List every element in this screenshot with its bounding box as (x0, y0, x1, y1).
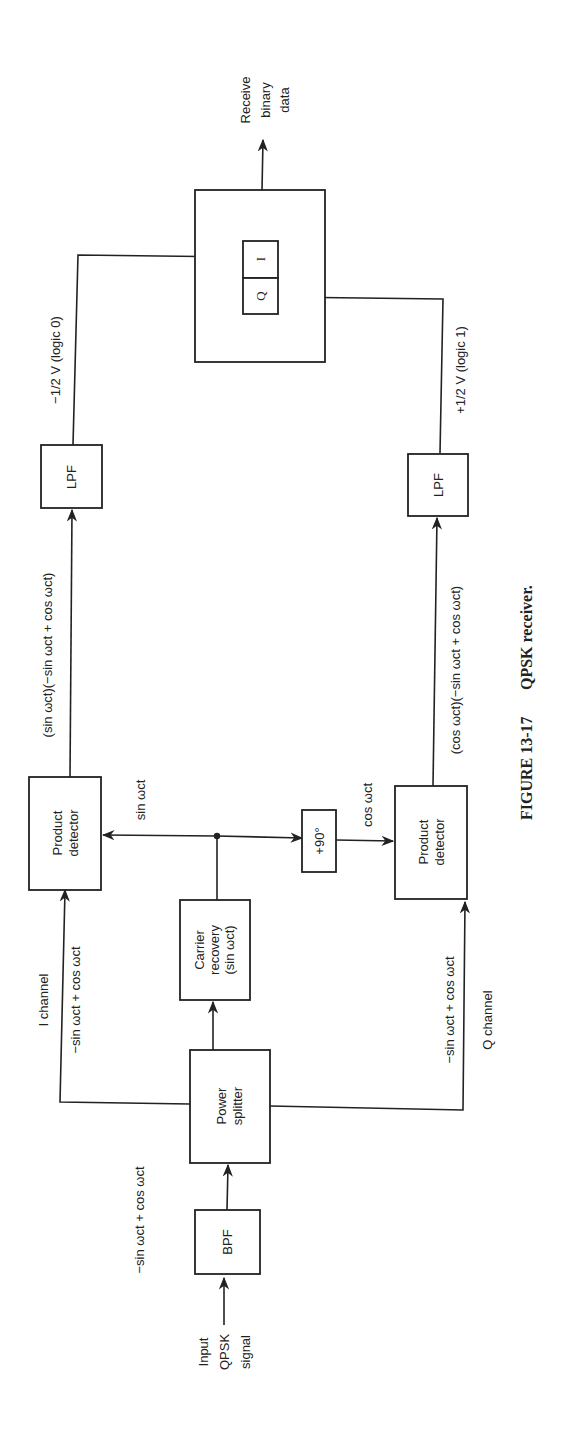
svg-text:Carrier: Carrier (192, 929, 207, 969)
product-detector-i-block: Product detector (29, 777, 101, 890)
input-signal-label: −sin ωct + cos ωct (132, 1166, 147, 1273)
cos-carrier-wire (336, 840, 393, 841)
q-product-wire (433, 518, 437, 786)
svg-text:binary: binary (258, 82, 273, 118)
carrier-recovery-block: Carrier recovery (sin ωct) (180, 900, 250, 1000)
i-output-label: −1/2 V (logic 0) (48, 316, 63, 404)
svg-text:+90°: +90° (312, 827, 327, 854)
i-signal-label: −sin ωct + cos ωct (68, 946, 83, 1053)
svg-text:data: data (277, 87, 292, 113)
qpsk-receiver-diagram: BPF Power splitter Carrier recovery (sin… (0, 0, 567, 1450)
cos-carrier-label: cos ωct (360, 783, 375, 827)
svg-text:Q: Q (253, 291, 268, 301)
power-splitter-block: Power splitter (190, 1050, 270, 1163)
svg-text:detector: detector (432, 818, 447, 866)
figure-caption: FIGURE 13-17 QPSK receiver. (518, 585, 535, 820)
bpf-label: BPF (220, 1229, 235, 1254)
product-detector-q-block: Product detector (395, 786, 467, 899)
svg-text:LPF: LPF (64, 465, 79, 489)
junction-to-phase-wire (217, 836, 302, 838)
svg-text:LPF: LPF (431, 473, 446, 497)
bpf-to-splitter-wire (227, 1165, 228, 1210)
q-channel-label: Q channel (480, 990, 495, 1049)
i-channel-label: I channel (36, 974, 51, 1027)
decision-block: I Q (195, 190, 325, 362)
lpf-q-block: LPF (408, 454, 468, 516)
junction-dot (214, 833, 220, 839)
svg-text:Receive: Receive (238, 77, 253, 124)
q-product-label: (cos ωct)(−sin ωct + cos ωct) (448, 586, 463, 754)
svg-text:detector: detector (66, 809, 81, 857)
svg-text:recovery: recovery (207, 925, 222, 975)
caption-title: QPSK receiver. (518, 585, 535, 690)
svg-text:splitter: splitter (230, 1086, 245, 1125)
phase-shift-block: +90° (302, 810, 336, 872)
q-output-label: +1/2 V (logic 1) (453, 326, 468, 414)
svg-text:I: I (253, 257, 268, 261)
lpf-i-block: LPF (41, 445, 102, 508)
i-product-wire (70, 510, 72, 777)
sin-carrier-wire (103, 835, 217, 836)
svg-text:Input: Input (196, 1337, 211, 1366)
sin-carrier-label: sin ωct (133, 779, 148, 820)
input-label: Input QPSK signal (196, 1334, 253, 1370)
output-wire (262, 140, 263, 190)
i-product-label: (sin ωct)(−sin ωct + cos ωct) (40, 573, 55, 738)
bpf-block: BPF (195, 1210, 260, 1274)
svg-text:(sin ωct): (sin ωct) (222, 925, 237, 974)
q-signal-label: −sin ωct + cos ωct (442, 956, 457, 1063)
output-label: Receive binary data (238, 77, 292, 124)
svg-text:Product: Product (50, 810, 65, 855)
svg-text:QPSK: QPSK (217, 1334, 232, 1370)
svg-text:Product: Product (416, 819, 431, 864)
svg-text:Power: Power (214, 1087, 229, 1125)
svg-text:signal: signal (238, 1335, 253, 1369)
q-channel-wire (270, 902, 465, 1110)
caption-number: FIGURE 13-17 (518, 716, 535, 820)
